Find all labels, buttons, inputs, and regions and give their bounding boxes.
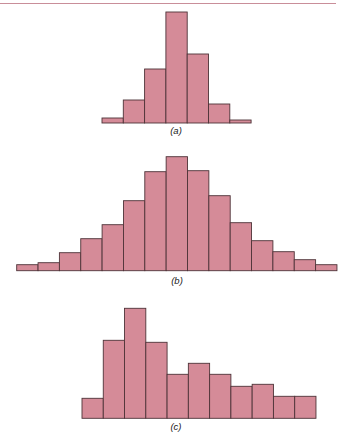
histogram-bar xyxy=(59,253,80,271)
histogram-bar xyxy=(103,340,124,418)
histogram-bar xyxy=(252,384,273,418)
histogram-bar xyxy=(230,223,251,271)
histogram-bar xyxy=(146,342,167,418)
histogram-bar xyxy=(102,225,123,271)
histogram-bar xyxy=(294,260,315,271)
histogram-bar xyxy=(145,172,166,271)
histogram-bar xyxy=(188,171,209,271)
panel-label-a: (a) xyxy=(170,125,182,136)
histogram-bar xyxy=(187,54,208,123)
histogram-bar xyxy=(17,265,38,271)
histogram-bar xyxy=(316,265,337,271)
histogram-bar xyxy=(295,396,316,418)
histogram-bar xyxy=(230,120,251,123)
histogram-bar xyxy=(209,104,230,123)
histogram-bar xyxy=(166,157,187,271)
histogram-bar xyxy=(209,196,230,271)
histogram-b xyxy=(17,157,337,271)
histogram-bar xyxy=(145,69,166,123)
histogram-figure: (a) (b) (c) xyxy=(0,0,349,435)
histogram-bar xyxy=(166,12,187,123)
histogram-bar xyxy=(82,398,103,418)
histogram-a xyxy=(102,12,251,123)
histogram-bar xyxy=(273,252,294,271)
histogram-bar xyxy=(210,374,231,418)
histogram-bar xyxy=(125,308,146,418)
histogram-bar xyxy=(123,100,144,123)
histogram-bar xyxy=(123,201,144,271)
histogram-bar xyxy=(81,239,102,271)
panel-label-b: (b) xyxy=(171,275,183,286)
panel-label-c: (c) xyxy=(170,421,181,432)
histogram-c xyxy=(82,308,316,418)
histogram-bar xyxy=(188,363,209,418)
histogram-bar xyxy=(102,118,123,123)
histogram-bar xyxy=(273,396,294,418)
histogram-bar xyxy=(167,374,188,418)
histogram-bar xyxy=(231,386,252,418)
histogram-bar xyxy=(252,241,273,271)
histogram-bar xyxy=(38,263,59,271)
